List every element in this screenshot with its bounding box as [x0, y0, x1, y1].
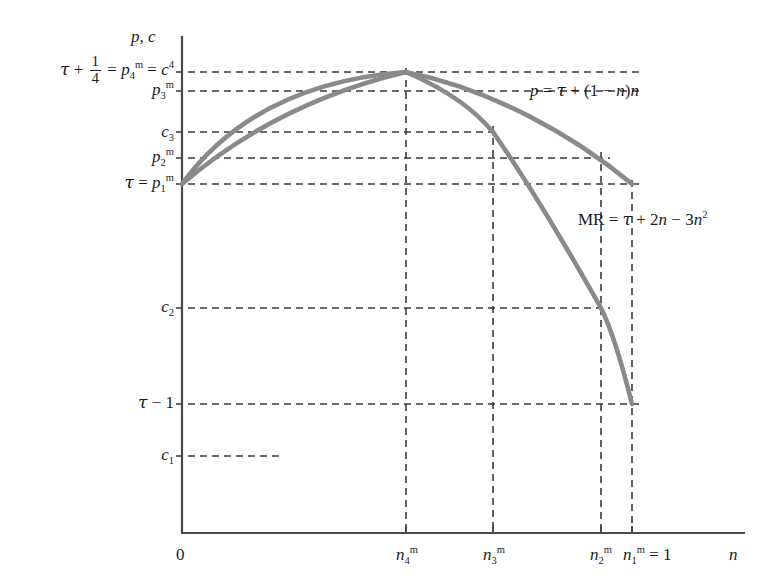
- n3m-base: n: [483, 545, 492, 564]
- fraction-numerator: 1: [90, 54, 102, 70]
- y-tick-label-c2: c2: [8, 298, 174, 315]
- n1m-sub: 1: [632, 555, 637, 566]
- y-tick-label-c3: c3: [8, 123, 174, 140]
- n1m-base: n: [623, 545, 632, 564]
- minus-operator: −: [147, 393, 165, 412]
- demand-n2: n: [631, 81, 640, 100]
- equals-operator-2: =: [143, 60, 161, 79]
- n3m-sup: m: [497, 544, 505, 555]
- x-axis-title-text: n: [729, 545, 738, 564]
- n4m-sub: 4: [405, 555, 410, 566]
- marginal-revenue-curve-label: MR = 𝜏 + 2n − 3n2: [578, 211, 707, 228]
- equals-operator-1: =: [103, 60, 121, 79]
- mr-n2-sup: 2: [702, 209, 707, 220]
- n2m-base: n: [590, 545, 599, 564]
- tau-symbol-minus: 𝜏: [138, 393, 147, 412]
- mr-text: MR: [578, 210, 604, 229]
- n4m-base: n: [396, 545, 405, 564]
- mr-two: 2: [650, 210, 659, 229]
- x-axis-title: n: [729, 546, 738, 563]
- tau-symbol-p1m: 𝜏: [125, 173, 134, 192]
- mr-three: 3: [685, 210, 694, 229]
- plus-operator: +: [69, 60, 87, 79]
- x-tick-label-n1m: n1m = 1: [623, 546, 672, 563]
- equals-operator-p1m: =: [134, 173, 152, 192]
- tau-minus-1-value: 1: [166, 393, 175, 412]
- y-tick-label-p1m: 𝜏 = p1m: [8, 174, 174, 191]
- demand-plus: +: [566, 81, 584, 100]
- demand-curve-label: p = 𝜏 + (1 − n)n: [530, 82, 639, 99]
- demand-tau: 𝜏: [557, 81, 566, 100]
- demand-one: 1: [590, 81, 599, 100]
- demand-minus: −: [598, 81, 616, 100]
- p1m-base: p: [152, 173, 161, 192]
- c1-base: c: [161, 445, 169, 464]
- n2m-sub: 2: [599, 555, 604, 566]
- equals-operator-n1m: =: [645, 545, 663, 564]
- p1m-sup: m: [166, 172, 174, 183]
- mr-tau: 𝜏: [623, 210, 632, 229]
- n4m-sup: m: [410, 544, 418, 555]
- n1m-sup: m: [637, 544, 645, 555]
- mr-equals: =: [604, 210, 622, 229]
- n3m-sub: 3: [492, 555, 497, 566]
- c3-sub: 3: [169, 132, 174, 143]
- p3m-base: p: [152, 80, 161, 99]
- p3m-sub: 3: [161, 90, 166, 101]
- c3-base: c: [161, 122, 169, 141]
- demand-p: p: [530, 81, 539, 100]
- y-axis-title: p, c: [131, 28, 156, 45]
- c4-sup: 4: [169, 60, 174, 71]
- y-tick-label-c1: c1: [8, 446, 174, 463]
- marginal-revenue-curve: [182, 72, 632, 404]
- n2m-sup: m: [604, 544, 612, 555]
- mr-minus: −: [667, 210, 685, 229]
- y-tick-label-p2m: p2m: [8, 148, 174, 165]
- x-tick-zero-text: 0: [176, 545, 185, 564]
- mr-n1: n: [659, 210, 668, 229]
- x-tick-label-zero: 0: [176, 546, 185, 563]
- p1m-sub: 1: [161, 183, 166, 194]
- p3m-sup: m: [166, 79, 174, 90]
- x-tick-label-n3m: n3m: [483, 546, 505, 563]
- c4-symbol: c4: [161, 60, 174, 79]
- figure-container: p, c 𝜏 + 14 = p4m = c4 p3m c3 p2m 𝜏 = p1…: [0, 0, 763, 585]
- mr-n2: n2: [694, 210, 708, 229]
- p2m-sup: m: [166, 146, 174, 157]
- y-axis-title-text: p, c: [131, 27, 156, 46]
- c2-base: c: [161, 297, 169, 316]
- p2m-base: p: [152, 147, 161, 166]
- c2-sub: 2: [169, 307, 174, 318]
- p4m-sup: m: [135, 60, 143, 71]
- horizontal-gridlines: [176, 72, 640, 456]
- n1m-value: 1: [663, 545, 672, 564]
- mr-plus: +: [632, 210, 650, 229]
- x-tick-label-n4m: n4m: [396, 546, 418, 563]
- x-tick-label-n2m: n2m: [590, 546, 612, 563]
- demand-n1: n: [616, 81, 625, 100]
- y-tick-label-p3m: p3m: [8, 81, 174, 98]
- p4m-sub: 4: [130, 71, 135, 82]
- p4m-symbol: p4m: [121, 60, 143, 79]
- demand-equals: =: [539, 81, 557, 100]
- c1-sub: 1: [169, 455, 174, 466]
- p2m-sub: 2: [161, 157, 166, 168]
- y-tick-label-tau-minus-1: 𝜏 − 1: [8, 394, 174, 411]
